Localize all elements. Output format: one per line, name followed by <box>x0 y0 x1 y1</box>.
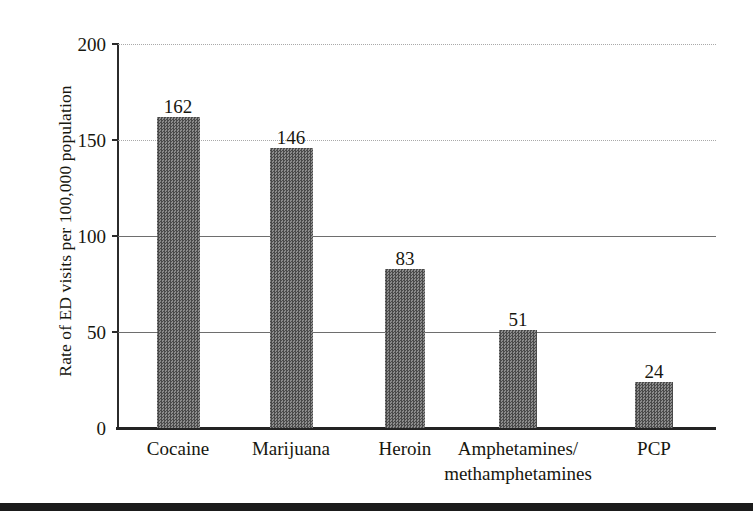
bottom-rule <box>0 503 753 511</box>
bar-heroin[interactable] <box>385 269 425 428</box>
y-tick-label-50: 50 <box>42 323 106 342</box>
bar-value-pcp: 24 <box>614 362 694 381</box>
bar-amphetamines[interactable] <box>499 330 537 428</box>
y-tick-label-150: 150 <box>42 131 106 150</box>
bar-cocaine[interactable] <box>157 117 200 428</box>
y-tick-label-200: 200 <box>42 35 106 54</box>
bar-value-amphetamines: 51 <box>478 310 558 329</box>
bar-value-heroin: 83 <box>365 249 445 268</box>
bar-value-cocaine: 162 <box>138 97 218 116</box>
chart-figure: Rate of ED visits per 100,000 population… <box>0 0 753 513</box>
x-label-amphetamines-line2: methamphetamines <box>423 462 613 485</box>
bar-value-marijuana: 146 <box>251 128 331 147</box>
gridline-150 <box>118 140 716 141</box>
y-tick-label-0: 0 <box>42 419 106 438</box>
gridline-200 <box>118 44 716 45</box>
bar-marijuana[interactable] <box>270 148 313 428</box>
y-tick-label-100: 100 <box>42 227 106 246</box>
gridline-100 <box>118 236 716 237</box>
x-label-pcp: PCP <box>559 437 749 460</box>
bar-pcp[interactable] <box>635 382 673 428</box>
